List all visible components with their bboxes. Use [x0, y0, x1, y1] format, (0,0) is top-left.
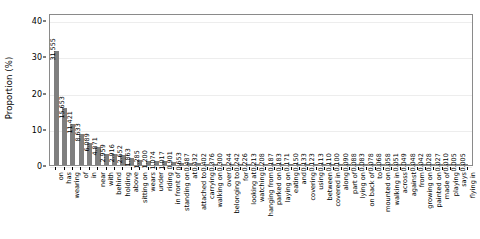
x-tick-slot: lying on: [354, 167, 362, 239]
x-tick-slot: belonging to: [228, 167, 236, 239]
x-tick-slot: in front of: [169, 167, 177, 239]
x-tick-mark: [316, 167, 317, 170]
x-tick-mark: [139, 167, 140, 170]
bar-slot[interactable]: 0.083: [361, 15, 369, 165]
x-tick-slot: growing on: [421, 167, 429, 239]
bar-slot[interactable]: 0.376: [211, 15, 219, 165]
bar-slot[interactable]: 0.133: [303, 15, 311, 165]
y-tick-mark: [43, 93, 46, 94]
bar-slot[interactable]: 31.555: [52, 15, 60, 165]
bar-slot[interactable]: 0.078: [370, 15, 378, 165]
bar-slot[interactable]: 4.871: [94, 15, 102, 165]
x-tick-mark: [282, 167, 283, 170]
bar-slot[interactable]: 0.113: [320, 15, 328, 165]
x-tick-slot: on: [51, 167, 59, 239]
bar-slot[interactable]: 0.010: [445, 15, 453, 165]
bar-slot[interactable]: 0.051: [395, 15, 403, 165]
bar-slot[interactable]: 0.487: [186, 15, 194, 165]
x-tick-mark: [291, 167, 292, 170]
bar-slot[interactable]: 0.187: [269, 15, 277, 165]
bar-slot[interactable]: 1.017: [161, 15, 169, 165]
bar-slot[interactable]: 0.048: [411, 15, 419, 165]
y-axis-label: Proportion (%): [2, 0, 16, 175]
x-tick-slot: flying in: [463, 167, 471, 239]
bar-slot[interactable]: 0.171: [286, 15, 294, 165]
bar-slot[interactable]: 11.421: [69, 15, 77, 165]
bar-slot[interactable]: 0.027: [437, 15, 445, 165]
x-tick-mark: [106, 167, 107, 170]
bar-slot[interactable]: 0.226: [244, 15, 252, 165]
x-tick-slot: carrying: [202, 167, 210, 239]
bar[interactable]: 0.005: [463, 164, 468, 165]
bar-slot[interactable]: 0.402: [202, 15, 210, 165]
x-tick-mark: [89, 167, 90, 170]
bar-value-label: 11.421: [66, 111, 72, 133]
bar-value-label: 2.959: [100, 144, 106, 162]
bar-slot[interactable]: 0.901: [169, 15, 177, 165]
y-tick-mark: [43, 21, 46, 22]
x-tick-slot: from: [412, 167, 420, 239]
y-tick-label: 40: [32, 17, 42, 26]
bar-slot[interactable]: 0.090: [345, 15, 353, 165]
x-tick-slot: covering: [303, 167, 311, 239]
bar-slot[interactable]: 0.058: [386, 15, 394, 165]
x-tick-slot: to: [370, 167, 378, 239]
x-tick-slot: walking on: [211, 167, 219, 239]
bar-slot[interactable]: 0.005: [453, 15, 461, 165]
x-tick-slot: riding: [160, 167, 168, 239]
x-tick-label: flying in: [470, 172, 477, 198]
bar-slot[interactable]: 0.244: [228, 15, 236, 165]
bar-slot[interactable]: 0.150: [294, 15, 302, 165]
bar-slot[interactable]: 0.300: [219, 15, 227, 165]
bar-chart-figure: Proportion (%) 010203040 31.55515.65311.…: [0, 0, 480, 239]
x-tick-mark: [450, 167, 451, 170]
bar-slot[interactable]: 0.653: [177, 15, 185, 165]
bar-slot[interactable]: 0.123: [311, 15, 319, 165]
x-tick-slot: on back of: [362, 167, 370, 239]
bar-slot[interactable]: 15.653: [60, 15, 68, 165]
bar-slot[interactable]: 0.049: [403, 15, 411, 165]
bar-slot[interactable]: 0.213: [253, 15, 261, 165]
bar-slot[interactable]: 1.074: [152, 15, 160, 165]
bar-slot[interactable]: 0.183: [278, 15, 286, 165]
x-tick-slot: wearing: [68, 167, 76, 239]
bar-slot[interactable]: 0.028: [428, 15, 436, 165]
x-tick-slot: watching: [253, 167, 261, 239]
bar-slot[interactable]: 1.200: [144, 15, 152, 165]
x-tick-slot: near: [93, 167, 101, 239]
x-tick-mark: [442, 167, 443, 170]
x-tick-slot: looking at: [244, 167, 252, 239]
x-tick-mark: [341, 167, 342, 170]
x-tick-mark: [190, 167, 191, 170]
x-tick-mark: [307, 167, 308, 170]
x-tick-slot: in: [85, 167, 93, 239]
bar-slot[interactable]: 0.088: [353, 15, 361, 165]
x-tick-mark: [64, 167, 65, 170]
x-tick-mark: [207, 167, 208, 170]
bar-slot[interactable]: 0.432: [194, 15, 202, 165]
y-tick-mark: [43, 129, 46, 130]
y-axis-ticks: 010203040: [16, 14, 46, 166]
bar-slot[interactable]: 0.100: [336, 15, 344, 165]
x-tick-mark: [97, 167, 98, 170]
x-tick-slot: hanging from: [261, 167, 269, 239]
bar-slot[interactable]: 2.959: [102, 15, 110, 165]
x-tick-mark: [164, 167, 165, 170]
x-tick-mark: [349, 167, 350, 170]
bar-slot[interactable]: 0.042: [420, 15, 428, 165]
x-tick-slot: between: [320, 167, 328, 239]
x-tick-slot: mounted on: [379, 167, 387, 239]
x-tick-mark: [358, 167, 359, 170]
bar-slot[interactable]: 0.068: [378, 15, 386, 165]
bar-slot[interactable]: 1.863: [127, 15, 135, 165]
bar-slot[interactable]: 0.110: [328, 15, 336, 165]
bar-slot[interactable]: 0.208: [261, 15, 269, 165]
bar-value-label: 2.652: [117, 145, 123, 163]
bar-slot[interactable]: 1.285: [136, 15, 144, 165]
bar-slot[interactable]: 2.652: [119, 15, 127, 165]
bar-slot[interactable]: 0.242: [236, 15, 244, 165]
bar-slot[interactable]: 2.916: [111, 15, 119, 165]
x-tick-slot: using: [312, 167, 320, 239]
bar-slot[interactable]: 0.005: [462, 15, 470, 165]
bar-value-label: 4.871: [92, 137, 98, 155]
